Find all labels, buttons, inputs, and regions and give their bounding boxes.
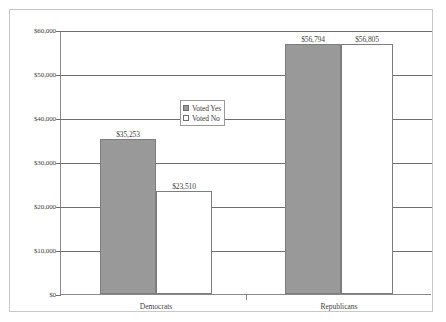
x-category-label-republicans: Republicans [285, 302, 393, 311]
legend-label-voted-yes: Voted Yes [192, 104, 221, 113]
y-tick-0 [56, 295, 61, 296]
legend-item-voted-yes[interactable]: Voted Yes [183, 103, 221, 113]
y-tick-50000 [56, 75, 61, 76]
plot-area: $35,253 $23,510 $56,794 $56,805 Democrat… [60, 31, 431, 295]
y-tick-40000 [56, 119, 61, 120]
y-tick-label-40000: $40,000 [10, 115, 56, 123]
bar-republicans-voted-yes[interactable] [285, 44, 341, 294]
legend-item-voted-no[interactable]: Voted No [183, 113, 221, 123]
x-category-boundary-tick [246, 295, 247, 300]
chart-legend[interactable]: Voted Yes Voted No [180, 100, 225, 126]
bar-value-democrats-voted-yes: $35,253 [100, 130, 156, 139]
bar-republicans-voted-no[interactable] [341, 44, 393, 294]
y-tick-10000 [56, 251, 61, 252]
legend-label-voted-no: Voted No [192, 114, 220, 123]
bar-democrats-voted-yes[interactable] [100, 139, 156, 294]
y-tick-label-50000: $50,000 [10, 71, 56, 79]
bar-value-democrats-voted-no: $23,510 [156, 182, 212, 191]
y-tick-label-0: $0 [10, 291, 56, 299]
y-tick-label-10000: $10,000 [10, 247, 56, 255]
gridline-60000 [61, 31, 432, 32]
x-category-label-democrats: Democrats [100, 302, 212, 311]
legend-swatch-filled-square-icon [183, 105, 189, 111]
y-axis-labels: $60,000 $50,000 $40,000 $30,000 $20,000 … [10, 10, 56, 322]
y-tick-label-60000: $60,000 [10, 27, 56, 35]
bar-value-republicans-voted-yes: $56,794 [285, 35, 341, 44]
bar-value-republicans-voted-no: $56,805 [341, 35, 393, 44]
chart-frame: $60,000 $50,000 $40,000 $30,000 $20,000 … [9, 9, 433, 312]
bar-democrats-voted-no[interactable] [156, 191, 212, 294]
legend-swatch-empty-square-icon [183, 115, 189, 121]
y-tick-label-20000: $20,000 [10, 203, 56, 211]
y-tick-label-30000: $30,000 [10, 159, 56, 167]
y-tick-30000 [56, 163, 61, 164]
y-tick-20000 [56, 207, 61, 208]
y-tick-60000 [56, 31, 61, 32]
